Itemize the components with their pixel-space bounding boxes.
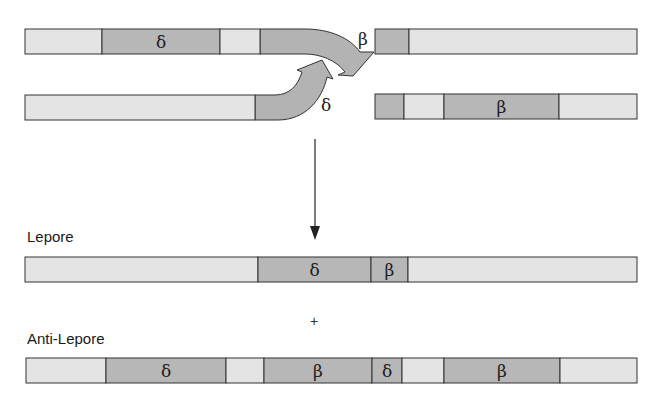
down-arrow-icon [310, 139, 320, 240]
flanking-segment [409, 29, 637, 54]
beta-arrow-label: β [358, 29, 368, 49]
segment-label: β [313, 361, 323, 381]
segment-label: δ [309, 260, 319, 280]
chromosome-top-right [375, 29, 637, 54]
anti-lepore-chromosome: δβδβ [26, 358, 637, 383]
gene-segment [375, 29, 409, 54]
anti-lepore-title: Anti-Lepore [27, 330, 105, 347]
lepore-crossover-diagram: δ β δβ δβδβ β δ Lepore + Anti-Lepore [0, 0, 660, 404]
flanking-segment [560, 358, 637, 383]
chromosome-top-left: δ [25, 29, 260, 54]
flanking-segment [220, 29, 260, 54]
gene-segment [375, 94, 404, 119]
flanking-segment [404, 94, 444, 119]
plus-sign: + [310, 313, 318, 329]
chromosome-bottom-left [25, 95, 255, 120]
segment-label: β [497, 361, 507, 381]
flanking-segment [25, 29, 102, 54]
lepore-title: Lepore [27, 228, 74, 245]
flanking-segment [25, 257, 258, 282]
flanking-segment [25, 95, 255, 120]
chromosome-bottom-right: β [375, 94, 637, 119]
crossover-arrows [255, 29, 374, 120]
lepore-chromosome: δβ [25, 257, 637, 282]
segment-label: δ [161, 361, 171, 381]
segment-label: β [497, 97, 507, 117]
flanking-segment [402, 358, 444, 383]
delta-arrow-label: δ [321, 95, 331, 115]
segment-label: δ [156, 32, 166, 52]
segment-label: δ [382, 361, 392, 381]
flanking-segment [559, 94, 637, 119]
segment-label: β [385, 260, 395, 280]
flanking-segment [26, 358, 106, 383]
flanking-segment [408, 257, 637, 282]
flanking-segment [226, 358, 264, 383]
